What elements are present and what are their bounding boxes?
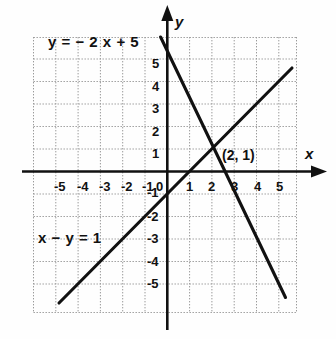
- y-tick-label: 4: [152, 80, 159, 93]
- x-tick-label: 5: [276, 180, 283, 193]
- x-tick-label: 3: [231, 180, 238, 193]
- x-axis-name: x: [305, 146, 313, 161]
- intersection-point-label: (2, 1): [222, 148, 255, 162]
- y-tick-label: -2: [147, 210, 159, 223]
- graph-figure: y = − 2 x + 5 x − y = 1 (2, 1) x y -5-4-…: [0, 0, 336, 339]
- y-tick-label: -1: [147, 186, 159, 199]
- y-tick-label: 2: [152, 125, 159, 138]
- y-tick-label: 5: [152, 57, 159, 70]
- x-tick-label: -3: [99, 180, 111, 193]
- x-axis: [22, 166, 327, 178]
- line-y-equals-minus-2x-plus-5: [161, 37, 286, 298]
- y-tick-label: -3: [147, 232, 159, 245]
- y-tick-label: 1: [152, 147, 159, 160]
- x-tick-label: -2: [121, 180, 133, 193]
- x-tick-label: -4: [77, 180, 89, 193]
- coordinate-plane: [0, 0, 336, 339]
- x-tick-label: -5: [54, 180, 66, 193]
- y-tick-label: 3: [152, 102, 159, 115]
- y-tick-label: -4: [147, 255, 159, 268]
- grid-lines: [34, 37, 297, 313]
- y-tick-label: -5: [147, 277, 159, 290]
- equation-label-line1: y = − 2 x + 5: [48, 34, 139, 49]
- equation-label-line2: x − y = 1: [38, 230, 102, 245]
- y-axis-name: y: [175, 14, 183, 29]
- x-tick-label: 2: [208, 180, 215, 193]
- x-tick-label: 1: [186, 180, 193, 193]
- x-tick-label: 4: [254, 180, 261, 193]
